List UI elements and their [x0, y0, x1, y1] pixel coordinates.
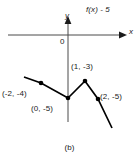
- x-axis-label: x: [129, 28, 133, 36]
- data-point-marker: [66, 96, 71, 101]
- point-label-left: (-2, -4): [2, 90, 27, 98]
- origin-label: 0: [60, 38, 65, 46]
- figure-panel: f(x) - 5 y x 0 (1, -3) (-2, -4) (0, -5) …: [0, 0, 139, 162]
- point-label-peak: (1, -3): [71, 63, 93, 71]
- figure-caption: (b): [0, 144, 139, 152]
- function-label: f(x) - 5: [86, 6, 110, 14]
- plot-area: [0, 0, 139, 162]
- point-label-right: (2, -5): [100, 93, 122, 101]
- point-label-origin-vertex: (0, -5): [31, 105, 53, 113]
- data-point-marker: [39, 81, 44, 86]
- y-axis-label: y: [65, 12, 69, 20]
- data-point-marker: [83, 79, 88, 84]
